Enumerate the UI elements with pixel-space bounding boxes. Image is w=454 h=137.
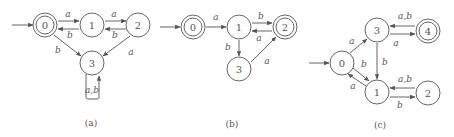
edge-3-1-label: b xyxy=(382,57,388,67)
edge-1-0-label: a xyxy=(350,81,355,91)
edge-3-4-label: a xyxy=(393,38,398,48)
state-3-label: 3 xyxy=(374,25,380,36)
caption-c: (c) xyxy=(374,120,386,130)
edge-1-0-label: b xyxy=(67,30,73,40)
edge-2-3-label: a xyxy=(128,47,133,57)
edge-2-1-label: a,b xyxy=(398,74,412,84)
edge-2-1-label: b xyxy=(112,30,118,40)
state-1-label: 1 xyxy=(374,87,380,98)
automata-figure: 0 1 2 3 a b a b b a a,b (a) 0 1 2 3 a b … xyxy=(0,0,454,137)
edge-1-3-label: b xyxy=(225,42,231,52)
edge-2-1-label: a xyxy=(256,33,261,43)
panel-c: 0 1 2 3 4 a b a b a a,b b a,b (c) xyxy=(309,11,440,130)
panel-a: 0 1 2 3 a b a b b a a,b (a) xyxy=(12,9,150,128)
state-2-label: 2 xyxy=(135,20,141,31)
state-3-label: 3 xyxy=(236,64,242,75)
edge-0-1-label: a xyxy=(65,9,70,19)
edge-4-3-label: a,b xyxy=(398,11,412,21)
edge-0-1-label: a xyxy=(213,12,218,22)
state-3-label: 3 xyxy=(89,58,95,69)
edge-1-2-label: b xyxy=(397,100,403,110)
state-2-label: 2 xyxy=(282,22,288,33)
panel-b: 0 1 2 3 a b a b a (b) xyxy=(160,11,297,129)
state-0-label: 0 xyxy=(190,22,196,33)
caption-a: (a) xyxy=(85,118,97,128)
state-1-label: 1 xyxy=(236,22,242,33)
edge-0-3-label: a xyxy=(349,36,354,46)
edge-0-1-label: b xyxy=(361,59,367,69)
state-0-label: 0 xyxy=(339,58,345,69)
state-4-label: 4 xyxy=(425,26,431,37)
state-1-label: 1 xyxy=(89,20,95,31)
state-2-label: 2 xyxy=(425,88,431,99)
state-0-label: 0 xyxy=(42,20,48,31)
edge-3-3-label: a,b xyxy=(85,85,99,95)
caption-b: (b) xyxy=(226,119,239,129)
edge-1-2-label: a xyxy=(111,9,116,19)
edge-1-2-label: b xyxy=(258,11,264,21)
edge-3-2-label: a xyxy=(264,56,269,66)
edge-0-3-label: b xyxy=(55,45,61,55)
